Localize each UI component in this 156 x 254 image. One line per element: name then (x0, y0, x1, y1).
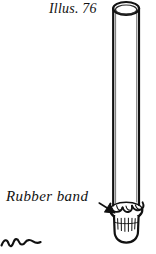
gathered-cloth-cup (114, 216, 139, 243)
illustration-drawing (0, 0, 156, 254)
label-rubber-band: Rubber band (6, 189, 88, 204)
figure-background (0, 0, 156, 254)
figure-illustration-76: Illus. 76 Rubber band (0, 0, 156, 254)
figure-caption: Illus. 76 (49, 2, 97, 16)
